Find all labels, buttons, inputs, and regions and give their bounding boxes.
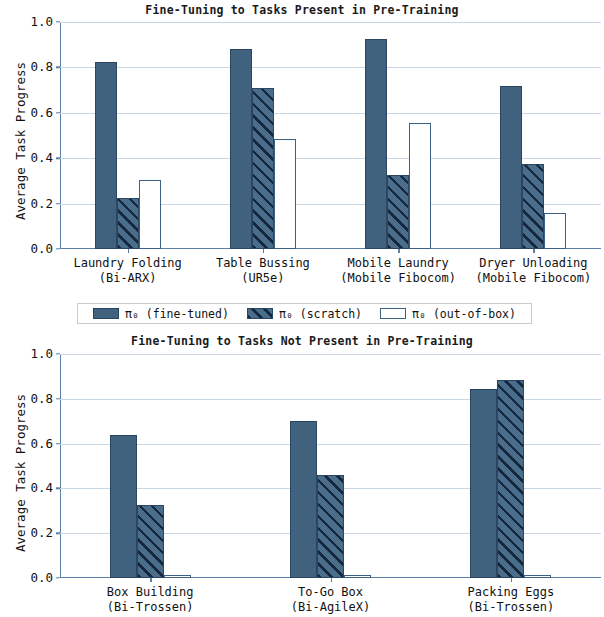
bar bbox=[409, 123, 431, 249]
plot-area-bottom: 0.00.20.40.60.81.0Box Building(Bi-Trosse… bbox=[60, 354, 601, 578]
x-axis-tick-label-line2: (Mobile Fibocom) bbox=[476, 271, 592, 286]
bar bbox=[139, 180, 161, 249]
y-axis-tick-mark bbox=[56, 112, 60, 113]
legend-label-scratch: π₀ (scratch) bbox=[279, 307, 362, 321]
bar bbox=[164, 575, 191, 578]
x-axis-tick-label: Packing Eggs(Bi-Trossen) bbox=[467, 585, 554, 615]
x-axis-tick-mark bbox=[398, 249, 399, 253]
bar bbox=[137, 505, 164, 578]
x-axis-tick-label-line1: Table Bussing bbox=[216, 256, 310, 270]
x-axis-tick-label-line2: (Bi-Trossen) bbox=[467, 600, 554, 615]
bar bbox=[500, 86, 522, 249]
legend-label-fine-tuned: π₀ (fine-tuned) bbox=[125, 307, 229, 321]
x-axis-tick-label: Dryer Unloading(Mobile Fibocom) bbox=[476, 256, 592, 286]
bar bbox=[95, 62, 117, 249]
legend-label-out-of-box: π₀ (out-of-box) bbox=[412, 307, 516, 321]
bar bbox=[252, 88, 274, 249]
y-axis-tick-mark bbox=[56, 398, 60, 399]
legend-item-scratch: π₀ (scratch) bbox=[247, 307, 362, 321]
x-axis-tick-mark bbox=[331, 578, 332, 582]
x-axis-tick-label-line2: (Bi-AgileX) bbox=[291, 600, 370, 615]
legend-swatch-scratch bbox=[247, 308, 273, 319]
x-axis-tick-label-line1: Packing Eggs bbox=[467, 585, 554, 599]
y-axis-tick-mark bbox=[56, 203, 60, 204]
y-axis-tick-mark bbox=[56, 532, 60, 533]
bar bbox=[470, 389, 497, 578]
legend-swatch-fine-tuned bbox=[93, 308, 119, 319]
x-axis-tick-mark bbox=[533, 249, 534, 253]
x-axis-tick-label: Laundry Folding(Bi-ARX) bbox=[73, 256, 181, 286]
bar bbox=[117, 198, 139, 249]
plot-area-top: 0.00.20.40.60.81.0Laundry Folding(Bi-ARX… bbox=[60, 22, 601, 249]
x-axis-tick-label-line2: (Mobile Fibocom) bbox=[340, 271, 456, 286]
gridline bbox=[60, 354, 601, 355]
y-axis-tick-mark bbox=[56, 21, 60, 22]
chart-legend: π₀ (fine-tuned) π₀ (scratch) π₀ (out-of-… bbox=[77, 303, 532, 324]
bar bbox=[344, 575, 371, 578]
x-axis-tick-label-line2: (Bi-ARX) bbox=[73, 271, 181, 286]
chart-title-bottom: Fine-Tuning to Tasks Not Present in Pre-… bbox=[0, 334, 604, 348]
x-axis-tick-label-line1: To-Go Box bbox=[298, 585, 363, 599]
bar bbox=[524, 575, 551, 578]
x-axis-tick-label-line1: Mobile Laundry bbox=[348, 256, 449, 270]
x-axis-tick-label: Box Building(Bi-Trossen) bbox=[107, 585, 194, 615]
y-axis-tick-label: 0.0 bbox=[30, 572, 53, 585]
bar bbox=[317, 475, 344, 578]
y-axis-tick-mark bbox=[56, 248, 60, 249]
chart-panel-top: Fine-Tuning to Tasks Present in Pre-Trai… bbox=[0, 0, 604, 300]
bar bbox=[110, 435, 137, 578]
legend-item-fine-tuned: π₀ (fine-tuned) bbox=[93, 307, 229, 321]
y-axis-tick-mark bbox=[56, 443, 60, 444]
gridline bbox=[60, 67, 601, 68]
y-axis-tick-label: 1.0 bbox=[30, 348, 53, 361]
y-axis-tick-label: 0.8 bbox=[30, 393, 53, 406]
y-axis-label-top: Average Task Progress bbox=[13, 62, 28, 220]
y-axis-tick-label: 0.2 bbox=[30, 197, 53, 210]
y-axis-tick-label: 0.0 bbox=[30, 243, 53, 256]
x-axis-tick-label-line1: Laundry Folding bbox=[73, 256, 181, 270]
y-axis-tick-label: 1.0 bbox=[30, 16, 53, 29]
x-axis-tick-label: Table Bussing(UR5e) bbox=[216, 256, 310, 286]
legend-swatch-out-of-box bbox=[380, 308, 406, 319]
x-axis-tick-label-line2: (UR5e) bbox=[216, 271, 310, 286]
chart-title-top: Fine-Tuning to Tasks Present in Pre-Trai… bbox=[0, 3, 604, 17]
y-axis-tick-label: 0.4 bbox=[30, 482, 53, 495]
y-axis-tick-label: 0.6 bbox=[30, 437, 53, 450]
y-axis-tick-label: 0.6 bbox=[30, 107, 53, 120]
x-axis-tick-label-line1: Box Building bbox=[107, 585, 194, 599]
bar-chart-figure: Fine-Tuning to Tasks Present in Pre-Trai… bbox=[0, 0, 604, 617]
y-axis-tick-mark bbox=[56, 157, 60, 158]
y-axis-tick-mark bbox=[56, 353, 60, 354]
bar bbox=[365, 39, 387, 249]
chart-panel-bottom: Fine-Tuning to Tasks Not Present in Pre-… bbox=[0, 330, 604, 617]
y-axis-label-bottom: Average Task Progress bbox=[13, 394, 28, 552]
legend-item-out-of-box: π₀ (out-of-box) bbox=[380, 307, 516, 321]
y-axis-tick-mark bbox=[56, 67, 60, 68]
y-axis-tick-label: 0.4 bbox=[30, 152, 53, 165]
x-axis-tick-label: Mobile Laundry(Mobile Fibocom) bbox=[340, 256, 456, 286]
x-axis-tick-mark bbox=[263, 249, 264, 253]
y-axis-tick-label: 0.8 bbox=[30, 61, 53, 74]
x-axis-tick-mark bbox=[511, 578, 512, 582]
bar bbox=[387, 175, 409, 249]
y-axis-tick-label: 0.2 bbox=[30, 527, 53, 540]
y-axis-tick-mark bbox=[56, 488, 60, 489]
bar bbox=[290, 421, 317, 578]
bar bbox=[522, 164, 544, 249]
bar bbox=[274, 139, 296, 249]
bar bbox=[497, 380, 524, 578]
x-axis-tick-label: To-Go Box(Bi-AgileX) bbox=[291, 585, 370, 615]
bar bbox=[544, 213, 566, 249]
y-axis-tick-mark bbox=[56, 577, 60, 578]
x-axis-tick-label-line1: Dryer Unloading bbox=[479, 256, 587, 270]
bar bbox=[230, 49, 252, 249]
gridline bbox=[60, 22, 601, 23]
x-axis-tick-mark bbox=[150, 578, 151, 582]
x-axis-tick-label-line2: (Bi-Trossen) bbox=[107, 600, 194, 615]
x-axis-tick-mark bbox=[128, 249, 129, 253]
